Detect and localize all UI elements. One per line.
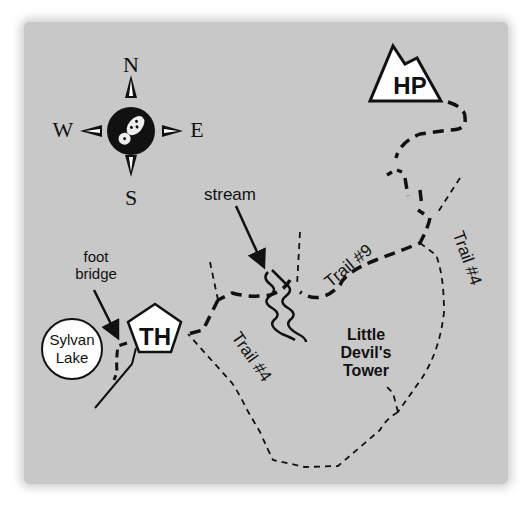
compass-south-label: S (125, 185, 137, 210)
compass-west-label: W (53, 117, 74, 142)
svg-text:Devil's: Devil's (341, 344, 392, 361)
svg-text:Tower: Tower (343, 362, 389, 379)
stream-pointer-arrow (236, 206, 263, 265)
trail-4-east-label: Trail #4 (449, 229, 486, 288)
trail-9-path (188, 102, 465, 334)
compass-north-label: N (123, 52, 139, 77)
trail-4-west-label: Trail #4 (228, 328, 276, 385)
trailhead-label: TH (139, 323, 171, 350)
foot-bridge-label-line2: bridge (75, 265, 117, 282)
foot-bridge-label-line1: foot (83, 248, 109, 265)
trail-9-label: Trail #9 (321, 240, 376, 291)
little-devils-tower-label: Little Devil's Tower (341, 326, 392, 379)
foot-bridge-pointer-arrow (94, 290, 117, 336)
high-point-marker[interactable]: HP (370, 46, 441, 101)
sylvan-lake-marker[interactable]: Sylvan Lake (42, 319, 102, 379)
lake-label-line2: Lake (56, 349, 89, 366)
stream-icon (265, 270, 306, 342)
trail-4-path (188, 178, 460, 467)
stream-label: stream (204, 185, 256, 204)
trail-map: N S W E HP (0, 0, 532, 521)
compass-rose: N S W E (53, 52, 204, 210)
high-point-label: HP (393, 72, 426, 99)
lake-label-line1: Sylvan (49, 331, 94, 348)
compass-east-label: E (190, 117, 203, 142)
trailhead-marker[interactable]: TH (128, 304, 181, 352)
foot-bridge-path (114, 343, 127, 380)
svg-text:Little: Little (347, 326, 385, 343)
